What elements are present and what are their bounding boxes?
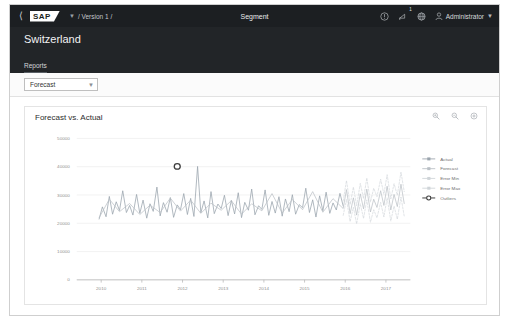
svg-text:2013: 2013 [218,286,229,291]
svg-text:Error Max: Error Max [440,186,461,191]
svg-text:2016: 2016 [340,286,351,291]
back-chevron-icon[interactable]: ⟨ [16,9,26,23]
svg-text:30000: 30000 [57,193,70,198]
object-page-header: Switzerland Reports [10,27,499,73]
filter-bar: Forecast ▼ [10,73,499,97]
chart-card: Forecast vs. Actual [24,106,487,305]
svg-text:40000: 40000 [57,165,70,170]
notification-badge: 1 [409,8,412,13]
svg-text:2014: 2014 [259,286,270,291]
report-select-value: Forecast [30,81,55,88]
chart-toolbar [432,112,478,120]
user-menu[interactable]: Administrator ▼ [435,12,493,21]
forecast-vs-actual-chart[interactable]: 0100002000030000400005000020102011201220… [25,131,486,304]
svg-text:20000: 20000 [57,221,70,226]
shell-bar-actions: 1 Administrator ▼ [380,12,493,21]
svg-text:50000: 50000 [57,136,70,141]
svg-text:2012: 2012 [177,286,188,291]
chart-plot-area[interactable]: 0100002000030000400005000020102011201220… [25,131,486,304]
svg-text:2011: 2011 [137,286,147,291]
svg-text:10000: 10000 [57,249,70,254]
svg-text:Outliers: Outliers [440,196,457,201]
object-title: Switzerland [24,33,485,46]
svg-text:Error Min: Error Min [440,176,459,181]
chevron-down-icon: ▼ [487,13,493,19]
svg-text:0: 0 [67,278,70,283]
zoom-in-icon[interactable] [432,112,440,120]
chevron-down-icon: ▼ [88,82,94,88]
svg-text:Actual: Actual [440,157,453,162]
breadcrumb[interactable]: / Version 1 / [78,13,112,20]
svg-text:Forecast: Forecast [440,166,459,171]
person-icon [435,12,443,21]
svg-text:2010: 2010 [96,286,107,291]
user-name: Administrator [446,13,484,20]
zoom-out-icon[interactable] [451,112,459,120]
application-window: ⟨ SAP ▼ / Version 1 / Segment 1 [9,4,500,316]
tab-reports[interactable]: Reports [24,62,47,73]
object-tabs: Reports [24,62,47,73]
shell-bar: ⟨ SAP ▼ / Version 1 / Segment 1 [10,5,499,27]
svg-text:2017: 2017 [381,286,392,291]
chart-title: Forecast vs. Actual [35,113,478,122]
globe-icon[interactable] [417,12,426,21]
chevron-down-icon[interactable]: ▼ [69,13,75,19]
figure-caption [14,318,484,326]
chart-card-header: Forecast vs. Actual [25,107,486,131]
sap-logo[interactable]: SAP [30,11,60,22]
help-circle-icon[interactable] [380,12,389,21]
bell-icon[interactable]: 1 [398,12,408,21]
svg-text:2015: 2015 [299,286,310,291]
report-select[interactable]: Forecast ▼ [24,78,98,91]
settings-icon[interactable] [470,112,478,120]
